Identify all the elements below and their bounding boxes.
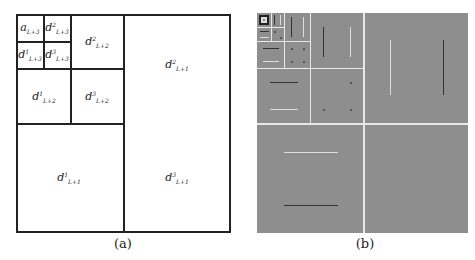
label-d1-L2: d1L+2 xyxy=(32,90,56,105)
label-d3-L2: d3L+2 xyxy=(85,90,109,105)
detail-line xyxy=(443,40,444,95)
caption-a: (a) xyxy=(114,236,132,251)
label-d2-L3: d2L+3 xyxy=(45,21,69,36)
detail-line xyxy=(270,82,298,83)
divider-h-l2 xyxy=(257,68,363,69)
caption-b: (b) xyxy=(356,236,374,251)
label-a-L3: aL+3 xyxy=(20,21,39,36)
detail-line xyxy=(390,40,391,95)
label-d2-L1: d2L+1 xyxy=(165,58,189,73)
label-d1-L3: d1L+3 xyxy=(18,48,42,63)
detail-line xyxy=(303,17,304,37)
detail-line xyxy=(274,15,275,25)
label-d2-L2: d2L+2 xyxy=(85,35,109,50)
detail-dot xyxy=(291,61,293,63)
detail-dot xyxy=(280,37,282,39)
detail-line xyxy=(263,48,279,49)
label-d1-L1: d1L+1 xyxy=(57,171,81,186)
detail-line xyxy=(280,15,281,25)
label-d3-L1: d3L+1 xyxy=(165,171,189,186)
label-d3-L3: d3L+3 xyxy=(45,48,69,63)
detail-dot xyxy=(274,31,276,33)
detail-dot xyxy=(303,61,305,63)
detail-dot xyxy=(350,82,352,84)
detail-dot xyxy=(350,109,352,111)
detail-line xyxy=(284,152,338,153)
divider-h-l3 xyxy=(257,41,310,42)
detail-dot xyxy=(303,48,305,50)
detail-line xyxy=(263,61,279,62)
approx-square-core xyxy=(263,19,265,21)
detail-line xyxy=(270,109,298,110)
detail-dot xyxy=(291,48,293,50)
divider-h-l4 xyxy=(257,27,284,28)
detail-line xyxy=(291,17,292,37)
detail-line xyxy=(260,31,269,32)
divider-h-l1 xyxy=(257,123,468,125)
detail-line xyxy=(284,205,338,206)
detail-line xyxy=(260,37,269,38)
detail-line xyxy=(350,27,351,57)
detail-line xyxy=(323,27,324,57)
detail-dot xyxy=(323,109,325,111)
